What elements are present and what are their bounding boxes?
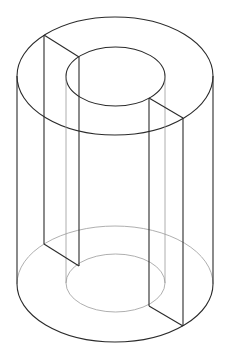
bottom-outer-ellipse-front bbox=[17, 284, 213, 342]
top-inner-ellipse bbox=[66, 47, 165, 106]
cut-right-top-radial bbox=[149, 98, 183, 118]
cut-left-top-radial bbox=[44, 35, 79, 57]
cut-left-bottom-radial bbox=[44, 244, 79, 266]
bottom-inner-ellipse bbox=[66, 254, 165, 312]
top-outer-ellipse bbox=[17, 17, 213, 135]
cut-right-bottom-radial bbox=[149, 306, 183, 326]
bottom-outer-ellipse-back bbox=[17, 226, 213, 284]
hollow-cylinder-drawing bbox=[0, 0, 227, 348]
